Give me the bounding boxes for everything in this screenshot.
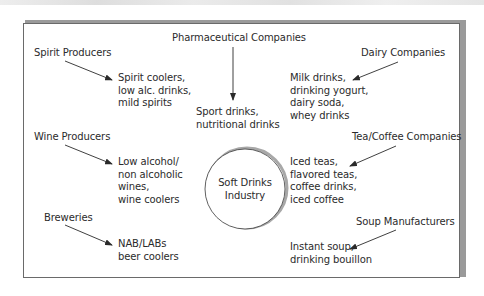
source-soup-manufacturers: Soup Manufacturers	[356, 216, 455, 229]
center-label: Soft Drinks Industry	[205, 177, 285, 202]
products-teacoffee: Iced teas, flavored teas, coffee drinks,…	[290, 156, 357, 206]
products-pharma: Sport drinks, nutritional drinks	[196, 106, 280, 131]
arrow-wine	[65, 145, 112, 164]
products-soup: Instant soup, drinking bouillon	[290, 241, 372, 266]
products-dairy: Milk drinks, drinking yogurt, dairy soda…	[290, 72, 368, 122]
products-spirit: Spirit coolers, low alc. drinks, mild sp…	[118, 72, 191, 110]
source-breweries: Breweries	[44, 212, 93, 225]
arrow-breweries	[65, 225, 112, 245]
source-dairy-companies: Dairy Companies	[361, 47, 445, 60]
source-wine-producers: Wine Producers	[34, 131, 110, 144]
source-tea-coffee-companies: Tea/Coffee Companies	[352, 131, 461, 144]
source-spirit-producers: Spirit Producers	[34, 47, 111, 60]
source-pharmaceutical-companies: Pharmaceutical Companies	[172, 32, 306, 45]
products-wine: Low alcohol/ non alcoholic wines, wine c…	[118, 156, 183, 206]
products-breweries: NAB/LABs beer coolers	[118, 238, 179, 263]
arrow-spirit	[65, 61, 112, 80]
